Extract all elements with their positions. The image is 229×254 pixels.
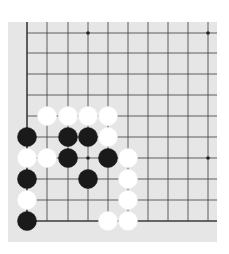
white-stone [119, 149, 138, 168]
black-stone [59, 149, 78, 168]
white-stone [119, 212, 138, 231]
star-point-icon [206, 31, 210, 35]
white-stone [119, 170, 138, 189]
black-stone [59, 128, 78, 147]
white-stone [99, 107, 118, 126]
black-stone [79, 128, 98, 147]
black-stone [99, 149, 118, 168]
white-stone [59, 107, 78, 126]
black-stone [18, 170, 37, 189]
white-stone [18, 149, 37, 168]
go-board [0, 0, 229, 254]
white-stone [38, 149, 57, 168]
black-stone [18, 128, 37, 147]
star-point-icon [86, 156, 90, 160]
star-point-icon [86, 31, 90, 35]
black-stone [79, 170, 98, 189]
black-stone [18, 212, 37, 231]
white-stone [99, 212, 118, 231]
white-stone [38, 107, 57, 126]
white-stone [18, 191, 37, 210]
white-stone [119, 191, 138, 210]
white-stone [99, 128, 118, 147]
star-point-icon [206, 156, 210, 160]
white-stone [79, 107, 98, 126]
